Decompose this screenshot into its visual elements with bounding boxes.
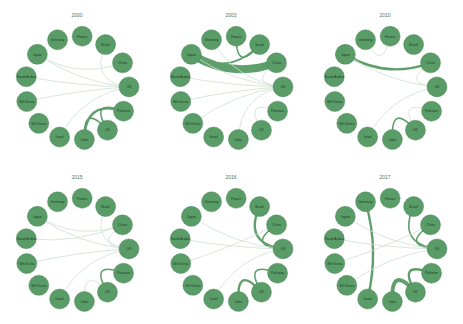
node-israel[interactable]: Israel	[358, 127, 378, 147]
node-brazil[interactable]: Brazil	[404, 35, 424, 55]
node-uk[interactable]: UK	[97, 120, 117, 140]
network-diagram: GermanyFranceBrazilChinaUSPakistanUKIndi…	[0, 0, 154, 162]
node-saudi-arabia[interactable]: Saudi Arabia	[16, 67, 36, 87]
svg-text:France: France	[385, 35, 396, 39]
node-india[interactable]: India	[228, 129, 248, 149]
svg-text:Brazil: Brazil	[409, 205, 418, 209]
node-uk[interactable]: UK	[405, 120, 425, 140]
node-pakistan[interactable]: Pakistan	[422, 101, 442, 121]
svg-text:Brazil: Brazil	[255, 43, 264, 47]
svg-text:India: India	[81, 138, 88, 142]
node-germany[interactable]: Germany	[356, 192, 376, 212]
node-india[interactable]: India	[228, 291, 248, 311]
node-north-korea[interactable]: Nth Korea	[17, 92, 37, 112]
node-uk[interactable]: UK	[97, 282, 117, 302]
node-india[interactable]: India	[74, 291, 94, 311]
node-north-korea[interactable]: Nth Korea	[171, 254, 191, 274]
node-japan[interactable]: Japan	[27, 44, 47, 64]
node-south-korea[interactable]: Sth Korea	[29, 275, 49, 295]
node-india[interactable]: India	[382, 129, 402, 149]
node-pakistan[interactable]: Pakistan	[114, 101, 134, 121]
node-pakistan[interactable]: Pakistan	[422, 263, 442, 283]
node-israel[interactable]: Israel	[204, 289, 224, 309]
node-uk[interactable]: UK	[251, 120, 271, 140]
node-israel[interactable]: Israel	[50, 127, 70, 147]
node-germany[interactable]: Germany	[48, 30, 68, 50]
node-china[interactable]: China	[267, 215, 287, 235]
node-us[interactable]: US	[119, 77, 139, 97]
svg-text:Israel: Israel	[209, 135, 218, 139]
edge	[37, 216, 122, 231]
node-north-korea[interactable]: Nth Korea	[325, 92, 345, 112]
node-china[interactable]: China	[267, 53, 287, 73]
node-north-korea[interactable]: Nth Korea	[17, 254, 37, 274]
chord-small-multiples: 2000GermanyFranceBrazilChinaUSPakistanUK…	[0, 0, 463, 324]
node-china[interactable]: China	[113, 215, 133, 235]
node-france[interactable]: France	[226, 188, 246, 208]
node-us[interactable]: US	[273, 77, 293, 97]
node-uk[interactable]: UK	[405, 282, 425, 302]
node-us[interactable]: US	[273, 239, 293, 259]
node-china[interactable]: China	[421, 215, 441, 235]
node-germany[interactable]: Germany	[48, 192, 68, 212]
node-israel[interactable]: Israel	[358, 289, 378, 309]
svg-text:Israel: Israel	[209, 297, 218, 301]
node-japan[interactable]: Japan	[27, 206, 47, 226]
node-north-korea[interactable]: Nth Korea	[325, 254, 345, 274]
node-france[interactable]: France	[72, 188, 92, 208]
node-brazil[interactable]: Brazil	[250, 197, 270, 217]
node-south-korea[interactable]: Sth Korea	[337, 275, 357, 295]
node-israel[interactable]: Israel	[204, 127, 224, 147]
node-uk[interactable]: UK	[251, 282, 271, 302]
node-saudi-arabia[interactable]: Saudi Arabia	[324, 229, 344, 249]
svg-text:US: US	[435, 247, 440, 251]
svg-text:Israel: Israel	[363, 297, 372, 301]
node-japan[interactable]: Japan	[335, 44, 355, 64]
node-brazil[interactable]: Brazil	[96, 197, 116, 217]
node-brazil[interactable]: Brazil	[96, 35, 116, 55]
node-china[interactable]: China	[113, 53, 133, 73]
svg-text:China: China	[426, 61, 435, 65]
node-japan[interactable]: Japan	[181, 44, 201, 64]
node-brazil[interactable]: Brazil	[404, 197, 424, 217]
node-us[interactable]: US	[119, 239, 139, 259]
node-saudi-arabia[interactable]: Saudi Arabia	[170, 229, 190, 249]
node-saudi-arabia[interactable]: Saudi Arabia	[324, 67, 344, 87]
node-germany[interactable]: Germany	[356, 30, 376, 50]
node-france[interactable]: France	[380, 188, 400, 208]
node-brazil[interactable]: Brazil	[250, 35, 270, 55]
panel-2015: 2015GermanyFranceBrazilChinaUSPakistanUK…	[0, 162, 154, 324]
node-pakistan[interactable]: Pakistan	[268, 101, 288, 121]
edge	[335, 225, 431, 264]
node-france[interactable]: France	[380, 26, 400, 46]
node-china[interactable]: China	[421, 53, 441, 73]
node-japan[interactable]: Japan	[335, 206, 355, 226]
svg-text:India: India	[235, 138, 242, 142]
svg-text:Israel: Israel	[363, 135, 372, 139]
node-us[interactable]: US	[427, 239, 447, 259]
node-india[interactable]: India	[382, 291, 402, 311]
svg-text:Sth Korea: Sth Korea	[185, 122, 200, 126]
node-japan[interactable]: Japan	[181, 206, 201, 226]
node-saudi-arabia[interactable]: Saudi Arabia	[170, 67, 190, 87]
node-pakistan[interactable]: Pakistan	[268, 263, 288, 283]
svg-text:China: China	[272, 61, 281, 65]
node-south-korea[interactable]: Sth Korea	[183, 275, 203, 295]
node-north-korea[interactable]: Nth Korea	[171, 92, 191, 112]
node-south-korea[interactable]: Sth Korea	[183, 113, 203, 133]
node-saudi-arabia[interactable]: Saudi Arabia	[16, 229, 36, 249]
node-south-korea[interactable]: Sth Korea	[337, 113, 357, 133]
node-south-korea[interactable]: Sth Korea	[29, 113, 49, 133]
svg-text:US: US	[435, 85, 440, 89]
node-france[interactable]: France	[226, 26, 246, 46]
network-diagram: GermanyFranceBrazilChinaUSPakistanUKIndi…	[308, 0, 462, 162]
node-india[interactable]: India	[74, 129, 94, 149]
node-pakistan[interactable]: Pakistan	[114, 263, 134, 283]
node-germany[interactable]: Germany	[202, 192, 222, 212]
svg-text:Nth Korea: Nth Korea	[19, 100, 34, 104]
svg-text:Japan: Japan	[33, 215, 42, 219]
node-france[interactable]: France	[72, 26, 92, 46]
node-israel[interactable]: Israel	[50, 289, 70, 309]
node-us[interactable]: US	[427, 77, 447, 97]
node-germany[interactable]: Germany	[202, 30, 222, 50]
